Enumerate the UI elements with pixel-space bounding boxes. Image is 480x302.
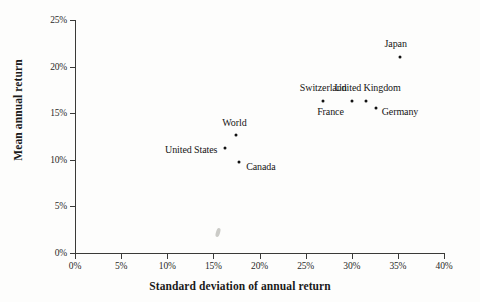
data-point-label: Japan (385, 38, 407, 49)
x-tick (398, 254, 399, 259)
x-tick (167, 254, 168, 259)
chart-page: 0%5%10%15%20%25%30%35%40% 0%5%10%15%20%2… (0, 0, 480, 302)
x-tick-label: 20% (251, 261, 268, 271)
y-tick (70, 253, 75, 254)
data-point-label: France (317, 106, 344, 117)
x-tick-label: 0% (69, 261, 81, 271)
y-tick-label: 20% (50, 62, 67, 72)
x-tick-label: 25% (297, 261, 314, 271)
data-point-label: United States (165, 143, 217, 154)
y-tick-label: 0% (55, 248, 67, 258)
y-tick-label: 10% (50, 155, 67, 165)
data-point (350, 100, 353, 103)
x-tick (260, 254, 261, 259)
data-point (224, 146, 227, 149)
y-tick (70, 20, 75, 21)
y-tick-label: 5% (55, 201, 67, 211)
data-point (374, 106, 377, 109)
data-point-label: Switzerland (300, 82, 347, 93)
x-tick (213, 254, 214, 259)
x-tick-label: 30% (343, 261, 360, 271)
data-point (235, 133, 238, 136)
y-tick-label: 15% (50, 108, 67, 118)
data-point-label: World (222, 116, 246, 127)
data-point (364, 100, 367, 103)
data-point-label: Canada (246, 160, 275, 171)
y-axis-title: Mean annual return (12, 30, 24, 190)
x-tick (121, 254, 122, 259)
y-tick (70, 160, 75, 161)
data-point (322, 100, 325, 103)
x-tick-label: 35% (389, 261, 406, 271)
x-tick (306, 254, 307, 259)
x-tick-label: 5% (115, 261, 127, 271)
x-tick (444, 254, 445, 259)
y-tick (70, 67, 75, 68)
y-tick (70, 206, 75, 207)
data-point (398, 56, 401, 59)
x-tick-label: 10% (159, 261, 176, 271)
data-point (238, 160, 241, 163)
y-axis-line (75, 20, 76, 254)
x-tick-label: 40% (436, 261, 453, 271)
x-tick-label: 15% (205, 261, 222, 271)
y-tick (70, 113, 75, 114)
data-point-label: Germany (382, 105, 419, 116)
x-axis-title: Standard deviation of annual return (0, 280, 480, 292)
y-tick-label: 25% (50, 15, 67, 25)
x-tick (75, 254, 76, 259)
x-tick (352, 254, 353, 259)
scan-smudge-artifact (215, 228, 221, 238)
